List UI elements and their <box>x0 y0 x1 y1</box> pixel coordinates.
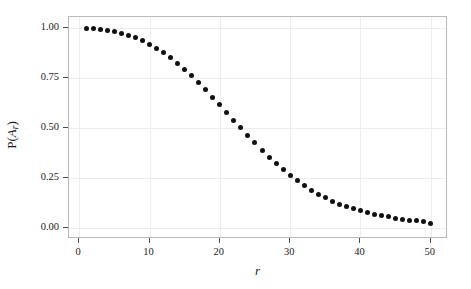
x-tick-label: 10 <box>129 247 169 258</box>
data-point <box>295 178 300 183</box>
data-point <box>98 27 103 32</box>
y-tick-label: 1.00 <box>41 22 59 33</box>
data-point <box>344 204 349 209</box>
data-point <box>421 219 426 224</box>
data-point <box>260 148 265 153</box>
data-point <box>245 133 250 138</box>
data-point <box>400 217 405 222</box>
data-point <box>133 35 138 40</box>
gridline-vertical <box>290 17 291 237</box>
data-point <box>288 173 293 178</box>
data-point <box>203 87 208 92</box>
data-point <box>393 216 398 221</box>
y-axis-label-prefix: P( <box>4 137 19 149</box>
data-point <box>231 118 236 123</box>
data-point <box>161 50 166 55</box>
data-point <box>140 38 145 43</box>
gridline-vertical <box>150 17 151 237</box>
data-point <box>302 183 307 188</box>
x-tick-mark <box>289 238 290 243</box>
y-axis-label: P(Ar) <box>4 24 20 246</box>
data-point <box>323 195 328 200</box>
gridline-horizontal <box>69 128 446 129</box>
x-tick-mark <box>149 238 150 243</box>
gridline-vertical <box>220 17 221 237</box>
y-tick-label: 0.00 <box>41 222 59 233</box>
x-tick-label: 50 <box>410 247 450 258</box>
plot-area <box>68 16 447 238</box>
data-point <box>210 95 215 100</box>
data-point <box>267 155 272 160</box>
data-point <box>407 218 412 223</box>
x-tick-label: 0 <box>58 247 98 258</box>
data-point <box>330 199 335 204</box>
data-point <box>196 80 201 85</box>
gridline-horizontal <box>69 78 446 79</box>
data-point <box>147 42 152 47</box>
data-point <box>365 210 370 215</box>
data-point <box>91 26 96 31</box>
gridline-horizontal <box>69 228 446 229</box>
gridline-vertical <box>431 17 432 237</box>
x-tick-label: 20 <box>199 247 239 258</box>
x-tick-mark <box>219 238 220 243</box>
data-point <box>274 161 279 166</box>
data-point <box>316 192 321 197</box>
y-axis-label-symbol: A <box>4 129 19 137</box>
data-point <box>224 110 229 115</box>
data-point <box>217 102 222 107</box>
data-point <box>281 167 286 172</box>
y-tick-label: 0.25 <box>41 172 59 183</box>
data-point <box>372 212 377 217</box>
gridline-vertical <box>360 17 361 237</box>
data-point <box>84 26 89 31</box>
gridline-horizontal <box>69 178 446 179</box>
x-axis-label-text: r <box>255 263 260 278</box>
data-point <box>175 61 180 66</box>
data-point <box>358 208 363 213</box>
data-point <box>238 125 243 130</box>
y-axis-label-subscript: r <box>10 126 20 130</box>
data-point <box>386 214 391 219</box>
chart-figure: 0.000.250.500.751.00 01020304050 P(Ar) r <box>0 0 471 289</box>
data-point <box>337 202 342 207</box>
x-tick-mark <box>78 238 79 243</box>
x-axis-label: r <box>68 264 447 277</box>
data-point <box>379 213 384 218</box>
data-point <box>119 31 124 36</box>
x-tick-label: 40 <box>339 247 379 258</box>
data-point <box>126 33 131 38</box>
x-tick-mark <box>430 238 431 243</box>
data-point <box>154 46 159 51</box>
x-tick-mark <box>359 238 360 243</box>
gridline-horizontal <box>69 28 446 29</box>
y-tick-label: 0.75 <box>41 72 59 83</box>
y-tick-label: 0.50 <box>41 122 59 133</box>
data-point <box>112 29 117 34</box>
x-tick-label: 30 <box>269 247 309 258</box>
y-axis-label-suffix: ) <box>4 121 19 125</box>
data-point <box>168 55 173 60</box>
data-point <box>105 28 110 33</box>
data-point <box>428 221 433 226</box>
data-point <box>182 67 187 72</box>
data-point <box>252 140 257 145</box>
gridline-vertical <box>79 17 80 237</box>
data-point <box>309 188 314 193</box>
data-point <box>351 206 356 211</box>
data-point <box>414 218 419 223</box>
